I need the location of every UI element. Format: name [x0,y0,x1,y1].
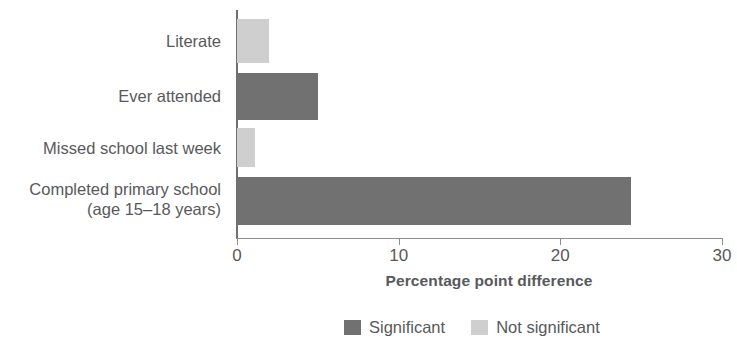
legend-swatch-significant-icon [344,320,361,335]
legend-swatch-not-significant-icon [471,320,488,335]
x-tick-label-20: 20 [551,246,570,266]
x-axis-title-text: Percentage point difference [386,272,593,290]
legend-label-not-significant: Not significant [496,318,600,337]
plot-area [237,10,722,238]
x-tick-mark-20 [560,238,561,245]
category-label-line: Completed primary school [29,179,221,199]
category-label-line: Literate [166,32,221,50]
x-tick-mark-10 [399,238,400,245]
category-label-missed-school-last-week: Missed school last week [43,138,221,158]
bar-completed-primary-school [237,177,631,225]
x-tick-label-30: 30 [713,246,732,266]
chart-figure: Literate Ever attended Missed school las… [0,0,737,344]
x-axis-title: Percentage point difference [0,272,737,290]
legend-item-not-significant: Not significant [471,318,600,337]
category-label-completed-primary-school: Completed primary school (age 15–18 year… [29,179,221,219]
legend-label-significant: Significant [369,318,445,337]
category-label-line-secondary: (age 15–18 years) [29,199,221,219]
category-label-literate: Literate [166,31,221,51]
x-tick-mark-0 [237,238,238,245]
bar-ever-attended [237,73,318,120]
legend-item-significant: Significant [344,318,445,337]
x-tick-label-0: 0 [232,246,241,266]
category-axis-labels: Literate Ever attended Missed school las… [0,0,229,238]
x-tick-mark-30 [722,238,723,245]
category-label-line: Ever attended [118,87,221,105]
x-axis-line [236,238,723,239]
bar-missed-school-last-week [237,128,255,167]
category-label-ever-attended: Ever attended [118,86,221,106]
chart-legend: Significant Not significant [0,318,737,340]
category-label-line: Missed school last week [43,139,221,157]
x-tick-label-10: 10 [389,246,408,266]
bar-literate [237,19,269,63]
